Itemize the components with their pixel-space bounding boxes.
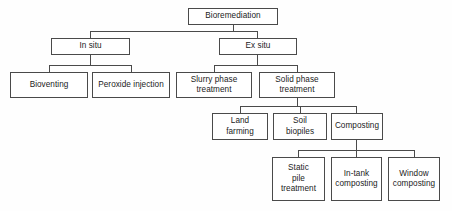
connector-solid-phase-stem <box>297 98 298 106</box>
connector-in-situ-bar <box>49 65 132 66</box>
connector-to-ex-situ <box>257 31 258 38</box>
node-ex-situ-label: Ex situ <box>246 41 271 52</box>
node-land-farming[interactable]: Land farming <box>212 113 268 140</box>
node-bioventing[interactable]: Bioventing <box>10 72 88 98</box>
connector-composting-stem <box>356 140 357 150</box>
node-in-situ[interactable]: In situ <box>51 38 130 55</box>
node-composting-label: Composting <box>335 121 379 132</box>
node-peroxide-injection[interactable]: Peroxide injection <box>92 72 170 98</box>
node-slurry-phase-treatment-label: Slurry phase treatment <box>191 75 238 96</box>
node-soil-biopiles[interactable]: Soil biopiles <box>273 113 327 140</box>
node-bioremediation[interactable]: Bioremediation <box>188 8 278 25</box>
node-in-tank-composting-label: In-tank composting <box>335 169 377 190</box>
connector-to-composting <box>356 106 357 113</box>
connector-level4-bar <box>240 106 357 107</box>
node-bioremediation-label: Bioremediation <box>205 11 260 22</box>
connector-to-solid-phase <box>297 65 298 72</box>
node-bioventing-label: Bioventing <box>30 80 69 91</box>
node-slurry-phase-treatment[interactable]: Slurry phase treatment <box>176 72 252 98</box>
connector-to-bioventing <box>49 65 50 72</box>
connector-root-stem <box>233 24 234 31</box>
node-soil-biopiles-label: Soil biopiles <box>286 116 314 137</box>
node-in-tank-composting[interactable]: In-tank composting <box>331 157 382 201</box>
connector-ex-situ-bar <box>214 65 298 66</box>
node-static-pile-treatment[interactable]: Static pile treatment <box>272 157 325 201</box>
node-in-situ-label: In situ <box>79 41 101 52</box>
connector-to-static-pile <box>298 150 299 157</box>
bioremediation-tree-diagram: Bioremediation In situ Ex situ Bioventin… <box>0 0 452 211</box>
node-land-farming-label: Land farming <box>226 116 254 137</box>
connector-to-in-tank <box>356 150 357 157</box>
connector-to-in-situ <box>90 31 91 38</box>
connector-to-peroxide-injection <box>131 65 132 72</box>
node-static-pile-treatment-label: Static pile treatment <box>281 163 316 195</box>
node-solid-phase-treatment-label: Solid phase treatment <box>275 75 318 96</box>
connector-ex-situ-stem <box>257 55 258 65</box>
connector-to-land-farming <box>240 106 241 113</box>
connector-to-slurry-phase <box>214 65 215 72</box>
node-window-composting-label: Window composting <box>393 169 435 190</box>
node-window-composting[interactable]: Window composting <box>388 157 440 201</box>
connector-in-situ-stem <box>90 55 91 65</box>
connector-level2-bar <box>90 31 258 32</box>
connector-to-soil-biopiles <box>300 106 301 113</box>
node-solid-phase-treatment[interactable]: Solid phase treatment <box>259 72 335 98</box>
node-peroxide-injection-label: Peroxide injection <box>98 80 164 91</box>
connector-to-window <box>414 150 415 157</box>
node-composting[interactable]: Composting <box>331 113 383 140</box>
node-ex-situ[interactable]: Ex situ <box>219 38 297 55</box>
